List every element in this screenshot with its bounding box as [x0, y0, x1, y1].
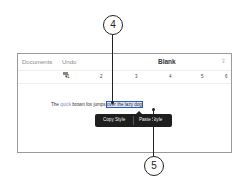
callout-dot-4	[111, 101, 114, 104]
document-text[interactable]: The quick brown fox jumps over the lazy …	[51, 102, 142, 107]
callout-dot-5	[152, 108, 155, 111]
ruler-mark: 2	[100, 74, 103, 79]
ruler-mark: 3	[135, 74, 138, 79]
menu-divider	[133, 116, 134, 125]
ruler-mark: 4	[169, 74, 172, 79]
text-segment: The	[51, 102, 60, 107]
ruler[interactable]: ▼ 1 2 3 4 5 6	[18, 70, 231, 84]
document-title: Blank	[158, 58, 176, 65]
ruler-mark: 1	[67, 74, 70, 79]
ruler-mark: 6	[225, 74, 228, 79]
paste-style-button[interactable]: Paste Style	[139, 117, 162, 122]
context-menu: Copy Style Paste Style	[95, 114, 172, 127]
callout-5: 5	[144, 156, 164, 176]
text-segment: brown fox jumps	[71, 102, 107, 107]
callout-leader-4	[112, 35, 113, 102]
callout-leader-5	[153, 109, 154, 156]
callout-4: 4	[103, 15, 123, 35]
documents-button[interactable]: Documents	[22, 59, 52, 65]
undo-button[interactable]: Undo	[62, 59, 76, 65]
toolbar: Documents Undo Blank ⇪	[18, 54, 231, 70]
text-segment-quick: quick	[60, 102, 71, 107]
app-window: Documents Undo Blank ⇪ ▼ 1 2 3 4 5 6 The…	[17, 53, 232, 153]
share-icon[interactable]: ⇪	[221, 57, 228, 64]
ruler-mark: 5	[201, 74, 204, 79]
copy-style-button[interactable]: Copy Style	[103, 117, 125, 122]
